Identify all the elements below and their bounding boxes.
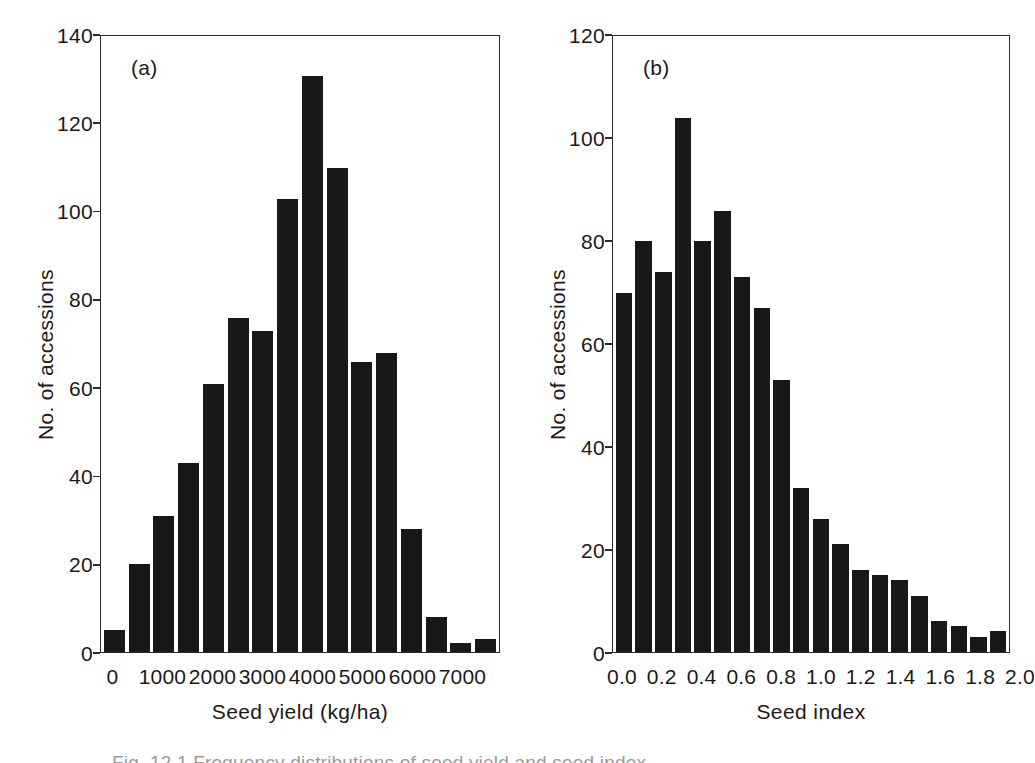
x-tick: 7000 xyxy=(439,655,487,687)
y-tick-mark xyxy=(605,137,612,139)
bar xyxy=(401,529,422,652)
x-tick-label: 0.6 xyxy=(726,655,756,687)
y-tick-mark xyxy=(605,34,612,36)
x-tick-label: 1.0 xyxy=(806,655,836,687)
bar-slot xyxy=(988,36,1008,652)
figure-caption: Fig. 12.1 Frequency distributions of see… xyxy=(112,752,932,763)
x-tick: 1.4 xyxy=(886,655,916,687)
bar xyxy=(104,630,125,652)
y-tick-mark xyxy=(93,387,100,389)
bar-slot xyxy=(634,36,654,652)
bar xyxy=(990,631,1007,652)
bar xyxy=(951,626,968,652)
y-tick-mark xyxy=(93,211,100,213)
y-tick-mark xyxy=(93,476,100,478)
y-tick-mark xyxy=(93,564,100,566)
bar xyxy=(376,353,397,652)
x-tick: 1.0 xyxy=(806,655,836,687)
bar-slot xyxy=(325,36,350,652)
x-tick: 6000 xyxy=(389,655,437,687)
bar-slot xyxy=(772,36,792,652)
x-axis-title-b: Seed index xyxy=(612,700,1010,724)
y-tick-mark xyxy=(93,122,100,124)
x-tick: 0.8 xyxy=(766,655,796,687)
x-tick-label: 5000 xyxy=(339,655,387,687)
bar-slot xyxy=(102,36,127,652)
y-tick-mark xyxy=(93,652,100,654)
bar-slot xyxy=(473,36,498,652)
x-tick-label: 3000 xyxy=(239,655,287,687)
panel-label-b: (b) xyxy=(643,56,670,80)
bar-slot xyxy=(732,36,752,652)
x-tick: 3000 xyxy=(239,655,287,687)
bar-slot xyxy=(399,36,424,652)
bar-slot xyxy=(374,36,399,652)
x-tick-label: 7000 xyxy=(439,655,487,687)
y-axis-title-a: No. of accessions xyxy=(34,269,58,440)
bar-slot xyxy=(300,36,325,652)
chart-panel-a: 020406080100120140 010002000300040005000… xyxy=(0,0,520,763)
y-axis-title-b: No. of accessions xyxy=(546,269,570,440)
bar xyxy=(277,199,298,652)
bar-slot xyxy=(929,36,949,652)
x-tick-label: 0.4 xyxy=(687,655,717,687)
x-tick-label: 6000 xyxy=(389,655,437,687)
bar-slot xyxy=(127,36,152,652)
bar xyxy=(832,544,849,652)
x-tick: 0.4 xyxy=(687,655,717,687)
bar-slot xyxy=(850,36,870,652)
x-tick-label: 2000 xyxy=(189,655,237,687)
x-tick: 5000 xyxy=(339,655,387,687)
bar-slot xyxy=(152,36,177,652)
x-axis-title-a: Seed yield (kg/ha) xyxy=(100,700,500,724)
bar xyxy=(327,168,348,652)
bar-slot xyxy=(176,36,201,652)
x-axis-b: 0.00.20.40.60.81.01.21.41.61.82.0 xyxy=(612,655,1010,689)
x-tick-label: 0.2 xyxy=(647,655,677,687)
bar-slot xyxy=(949,36,969,652)
bar xyxy=(655,272,672,652)
x-tick-label: 1.6 xyxy=(925,655,955,687)
x-tick: 1.8 xyxy=(965,655,995,687)
bar xyxy=(153,516,174,652)
x-tick-label: 0 xyxy=(107,655,119,687)
bar-slot xyxy=(713,36,733,652)
x-tick-label: 0.8 xyxy=(766,655,796,687)
x-tick-label: 2.0 xyxy=(1005,655,1035,687)
bar-slot xyxy=(673,36,693,652)
bar xyxy=(872,575,889,652)
bar-slot xyxy=(811,36,831,652)
plot-area-a xyxy=(100,35,500,653)
bar xyxy=(475,639,496,652)
x-tick: 2.0 xyxy=(1005,655,1035,687)
bar xyxy=(773,380,790,652)
bar-slot xyxy=(226,36,251,652)
bar-series-b xyxy=(613,36,1009,652)
bar-slot xyxy=(870,36,890,652)
bar xyxy=(694,241,711,652)
bar xyxy=(178,463,199,652)
x-tick-label: 0.0 xyxy=(607,655,637,687)
x-tick: 1000 xyxy=(139,655,187,687)
y-tick-mark xyxy=(93,34,100,36)
x-tick: 0.6 xyxy=(726,655,756,687)
bar-slot xyxy=(251,36,276,652)
bar-slot xyxy=(752,36,772,652)
bar-slot xyxy=(614,36,634,652)
x-tick-label: 1000 xyxy=(139,655,187,687)
bar-slot xyxy=(831,36,851,652)
chart-panel-b: 020406080100120 0.00.20.40.60.81.01.21.4… xyxy=(512,0,1031,763)
x-tick: 1.6 xyxy=(925,655,955,687)
x-tick-label: 1.4 xyxy=(886,655,916,687)
bar xyxy=(129,564,150,652)
bar xyxy=(616,293,633,652)
x-tick: 4000 xyxy=(289,655,337,687)
bar-slot xyxy=(449,36,474,652)
bar-slot xyxy=(424,36,449,652)
x-tick: 0 xyxy=(107,655,119,687)
bar-series-a xyxy=(101,36,499,652)
x-axis-a: 01000200030004000500060007000 xyxy=(100,655,500,689)
bar xyxy=(450,643,471,652)
bar xyxy=(351,362,372,652)
